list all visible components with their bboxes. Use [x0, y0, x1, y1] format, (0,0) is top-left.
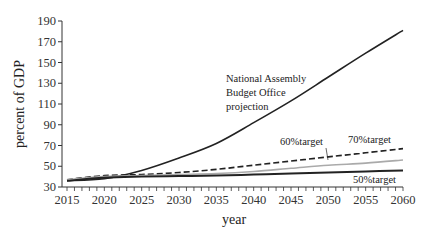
x-tick-label: 2020	[92, 193, 117, 207]
x-tick-label: 2055	[353, 193, 378, 207]
annotation-nabo-3: projection	[226, 101, 269, 112]
y-tick-label: 130	[37, 76, 56, 90]
y-axis-title: percent of GDP	[12, 60, 27, 148]
annotation-nabo-1: National Assembly	[226, 73, 307, 84]
line-chart: 3050709011013015017019020152020202520302…	[0, 0, 431, 243]
x-axis-title: year	[222, 212, 246, 227]
annotations: National Assembly Budget Office projecti…	[226, 73, 396, 185]
y-tick-label: 30	[44, 180, 57, 194]
annotation-50-target: 50%target	[353, 174, 396, 185]
y-tick-label: 150	[37, 56, 56, 70]
x-tick-label: 2030	[167, 193, 192, 207]
x-tick-label: 2050	[316, 193, 341, 207]
x-tick-label: 2060	[391, 193, 416, 207]
y-tick-label: 70	[44, 139, 57, 153]
x-tick-label: 2025	[129, 193, 154, 207]
x-tick-label: 2035	[204, 193, 229, 207]
y-tick-label: 190	[37, 14, 56, 28]
y-tick-label: 90	[44, 118, 57, 132]
y-tick-label: 110	[38, 97, 56, 111]
x-tick-label: 2040	[241, 193, 266, 207]
leader-line-60	[326, 148, 328, 160]
annotation-nabo-2: Budget Office	[226, 87, 286, 98]
x-tick-label: 2015	[55, 193, 80, 207]
y-tick-label: 170	[37, 35, 56, 49]
annotation-70-target: 70%target	[348, 134, 391, 145]
x-tick-label: 2045	[279, 193, 304, 207]
annotation-60-target: 60%target	[280, 136, 323, 147]
y-tick-label: 50	[44, 159, 57, 173]
